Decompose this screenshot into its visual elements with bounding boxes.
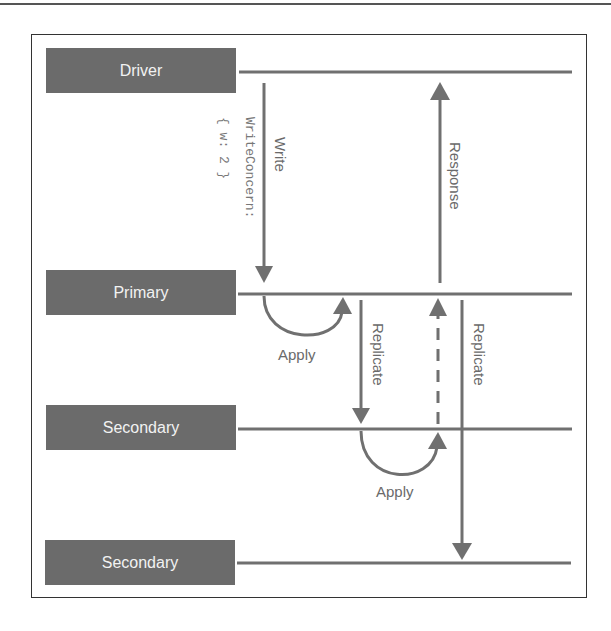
response-arrow xyxy=(430,82,450,283)
apply-arc-secondary xyxy=(361,431,447,475)
replicate-label-2: Replicate xyxy=(471,323,488,386)
writeconcern-label: WriteConcern: xyxy=(242,117,257,218)
apply-arc-primary xyxy=(264,296,352,335)
diagram-canvas: Write WriteConcern: { w: 2 } Response Ap… xyxy=(0,0,611,631)
response-label: Response xyxy=(447,142,464,210)
replicate-arrow-1 xyxy=(352,300,370,424)
w2-label: { w: 2 } xyxy=(216,117,231,179)
write-label: Write xyxy=(272,137,289,172)
apply-label-secondary: Apply xyxy=(376,483,414,500)
replicate-label-1: Replicate xyxy=(370,323,387,386)
ack-dashed-arrow xyxy=(429,298,447,424)
apply-label-primary: Apply xyxy=(278,346,316,363)
